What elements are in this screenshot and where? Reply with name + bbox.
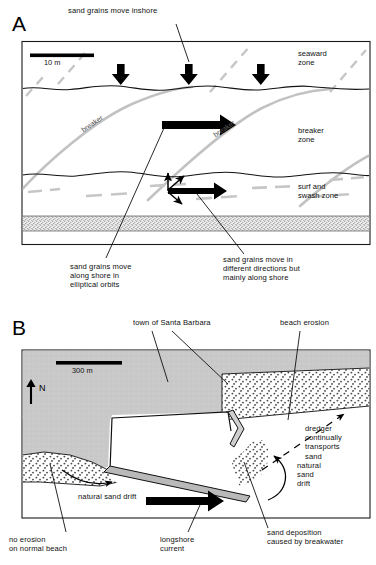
panel-b-scale-label: 300 m bbox=[72, 366, 93, 375]
label-sand-grains-move-inshore: sand grains move inshore bbox=[68, 6, 157, 15]
coastal-process-figure: A sand grains move inshore 10 m seaward … bbox=[0, 0, 376, 565]
harbor-water bbox=[108, 412, 240, 490]
label-no-erosion-normal-beach: no erosion on normal beach bbox=[9, 535, 67, 553]
panel-a-scale-bar bbox=[30, 54, 94, 58]
panel-b-letter: B bbox=[12, 316, 26, 340]
panel-a-scale-label: 10 m bbox=[44, 58, 60, 67]
zone-label-surf-swash: surf and swash zone bbox=[298, 182, 338, 201]
label-sand-deposition-breakwater: sand deposition caused by breakwater bbox=[267, 528, 343, 546]
label-sand-grains-different-directions: sand grains move in different directions… bbox=[223, 255, 300, 283]
label-longshore-current: longshore current bbox=[160, 535, 194, 553]
zone-label-seaward: seaward zone bbox=[298, 49, 327, 68]
label-natural-sand-drift-left: natural sand drift bbox=[78, 492, 136, 501]
label-natural-sand-drift-right: natural sand drift bbox=[297, 461, 321, 489]
panel-a-letter: A bbox=[12, 12, 26, 36]
panel-b-scale-bar bbox=[56, 361, 122, 365]
label-dredger-transports-sand: dredger continually transports sand bbox=[305, 424, 342, 461]
label-town-of-santa-barbara: town of Santa Barbara bbox=[133, 318, 211, 327]
seabed-sand-band bbox=[23, 216, 370, 231]
north-label: N bbox=[39, 383, 46, 393]
zone-label-breaker: breaker zone bbox=[298, 126, 324, 145]
label-beach-erosion: beach erosion bbox=[280, 318, 329, 327]
label-sand-grains-elliptical-orbits: sand grains move along shore in elliptic… bbox=[70, 262, 132, 290]
